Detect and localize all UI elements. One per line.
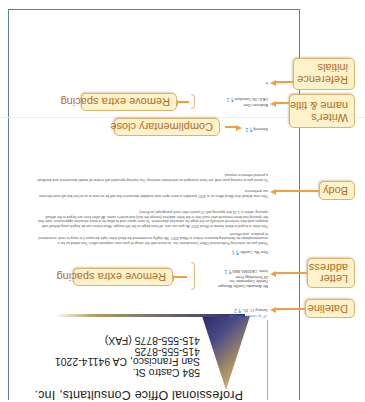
reference-initials: tt xyxy=(266,80,268,85)
callout-writers-name-title: Writer's name & title xyxy=(289,94,355,128)
complimentary-close: Sincerely ¶ 2 xyxy=(245,126,268,132)
paragraph-mark-icon: ¶ 1 xyxy=(232,250,239,256)
close-text: Sincerely xyxy=(253,127,268,131)
connector-line xyxy=(177,102,189,104)
paragraph-mark-icon: ¶ 1 xyxy=(227,97,234,103)
callout-dateline: Dateline xyxy=(305,299,355,318)
arrow-icon xyxy=(275,273,307,275)
arrow-icon xyxy=(275,191,319,193)
body-paragraph: Thank you for selecting Professional Off… xyxy=(36,231,268,245)
company-address: 584 Castro St. San Francisco, CA 94114-2… xyxy=(55,336,200,378)
dateline-text: January 17, 20-- xyxy=(242,308,268,312)
paragraph-mark-icon: ¶ 2 xyxy=(245,127,252,133)
paragraph-mark-icon: ¶ 2 xyxy=(234,308,241,314)
address-line: San Francisco, CA 94114-2201 xyxy=(55,357,200,368)
arrow-icon xyxy=(275,103,289,105)
connector-line xyxy=(173,277,187,279)
inside-address: Ms. Armanda Castillo, Manager Twinkle Co… xyxy=(218,269,268,288)
body-paragraph: To assist you in training your staff, we… xyxy=(36,173,268,182)
body-paragraph: This new default that Word offers us in … xyxy=(36,189,268,198)
dateline: January 17, 20-- ¶ 2 xyxy=(234,307,268,313)
company-name: Professional Office Consultants, Inc. xyxy=(34,388,243,402)
callout-letter-address: Letter address xyxy=(307,258,355,288)
callout-body: Body xyxy=(319,181,355,200)
callout-remove-spacing-writer: Remove extra spacing xyxy=(81,93,177,111)
callout-remove-spacing-address: Remove extra spacing xyxy=(73,268,173,286)
callout-reference-initials: Reference initials xyxy=(293,58,355,90)
letterhead-rule xyxy=(55,314,245,317)
address-line: 415-555-8775 (FAX) xyxy=(55,336,200,347)
address-line: 584 Castro St. xyxy=(55,368,200,379)
arrow-icon xyxy=(275,82,293,84)
address-line: 415-555-8725 xyxy=(55,347,200,358)
brace-icon xyxy=(191,94,195,109)
paragraph-mark-icon: ¶ 1 xyxy=(224,269,231,275)
vertical-guide-line xyxy=(267,320,268,400)
writer-block: Anderson Cline OA & CIS Consultant ¶ 1 xyxy=(227,97,268,107)
arrow-icon xyxy=(225,127,237,129)
arrow-icon xyxy=(275,309,305,311)
callout-complimentary-close: Complimentary close xyxy=(114,118,220,136)
salutation-text: Dear Ms. Castillo: xyxy=(240,250,268,254)
writer-title: OA & CIS Consultant xyxy=(234,97,268,101)
inside-address-line: Irvine, CA 92865-9845 ¶ 1 xyxy=(218,269,268,275)
brace-icon xyxy=(191,262,195,290)
body-paragraph: This letter is keyed in block format in … xyxy=(36,210,268,228)
vertical-spacing-note: ↓2" or center vertically xyxy=(229,314,268,319)
inside-address-line: Ms. Armanda Castillo, Manager xyxy=(218,283,268,288)
salutation: Dear Ms. Castillo: ¶ 1 xyxy=(232,249,268,255)
